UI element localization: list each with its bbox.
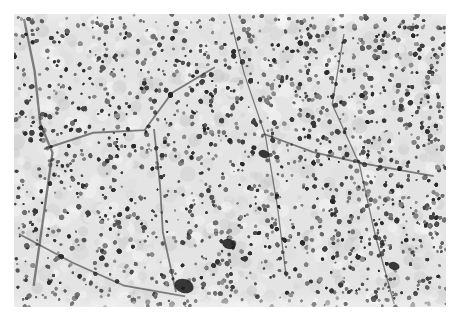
histology-micrograph	[14, 14, 446, 307]
image-frame	[0, 0, 454, 321]
